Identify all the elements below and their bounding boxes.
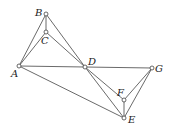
point-F: [122, 98, 126, 102]
segment-GE: [124, 68, 152, 118]
label-D: D: [88, 57, 96, 67]
segment-DG: [85, 67, 152, 68]
label-E: E: [128, 115, 135, 125]
label-B: B: [35, 8, 42, 18]
segment-CD: [46, 32, 85, 67]
label-C: C: [41, 36, 49, 46]
point-E: [122, 116, 126, 120]
segment-AD: [19, 66, 85, 67]
point-C: [44, 30, 48, 34]
diagram-canvas: [0, 0, 171, 131]
segment-AE: [19, 66, 124, 118]
geometry-figure: A B C D G F E: [0, 0, 171, 131]
segment-FG: [124, 68, 152, 100]
label-F: F: [117, 88, 124, 98]
segment-BD: [46, 14, 85, 67]
point-D: [83, 65, 87, 69]
label-G: G: [155, 64, 163, 74]
label-A: A: [11, 69, 18, 79]
point-G: [150, 66, 154, 70]
point-B: [44, 12, 48, 16]
